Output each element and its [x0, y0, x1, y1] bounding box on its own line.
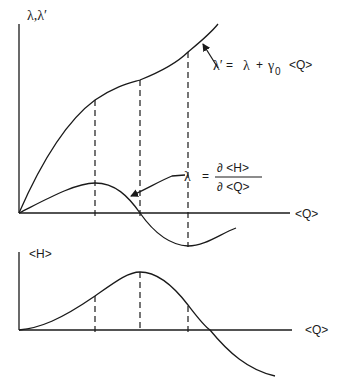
lambda-eq-denominator: ∂ <Q>	[217, 180, 250, 194]
lambda-prime-eq-lhs: λ′	[213, 58, 223, 73]
lambda-curve	[19, 183, 236, 246]
lambda-eq-numerator: ∂ <H>	[217, 161, 249, 175]
bottom-panel: <H> <Q>	[19, 247, 328, 376]
lambda-eq-lhs: λ	[184, 169, 191, 184]
diagram-canvas: λ,λ′ <Q> λ′ = λ + γ 0 <Q> λ = ∂ <H>	[0, 0, 344, 389]
lambda-prime-eq-q: <Q>	[289, 58, 312, 72]
bottom-y-axis-label: <H>	[29, 247, 52, 261]
lambda-prime-eq-lambda: λ	[243, 58, 250, 73]
lambda-prime-eq-gamma: γ	[267, 58, 274, 73]
lambda-equation: λ = ∂ <H> ∂ <Q>	[184, 161, 262, 194]
lambda-eq-equals: =	[202, 169, 209, 183]
top-y-axis-label: λ,λ′	[27, 8, 47, 23]
lambda-prime-eq-gamma-subscript: 0	[275, 66, 281, 77]
lambda-prime-eq-plus: +	[256, 58, 263, 72]
lambda-prime-equation: λ′ = λ + γ 0 <Q>	[213, 58, 312, 77]
top-x-axis-label: <Q>	[295, 207, 318, 221]
h-curve	[19, 272, 275, 376]
top-panel: λ,λ′ <Q> λ′ = λ + γ 0 <Q> λ = ∂ <H>	[19, 8, 318, 247]
lambda-prime-eq-equals: =	[226, 58, 233, 72]
bottom-x-axis-label: <Q>	[305, 323, 328, 337]
lambda-arrow-icon	[131, 175, 185, 196]
